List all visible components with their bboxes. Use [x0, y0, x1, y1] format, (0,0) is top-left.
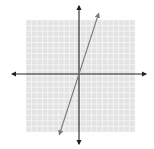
- gridlines: [26, 20, 135, 132]
- coordinate-plane: [0, 0, 154, 149]
